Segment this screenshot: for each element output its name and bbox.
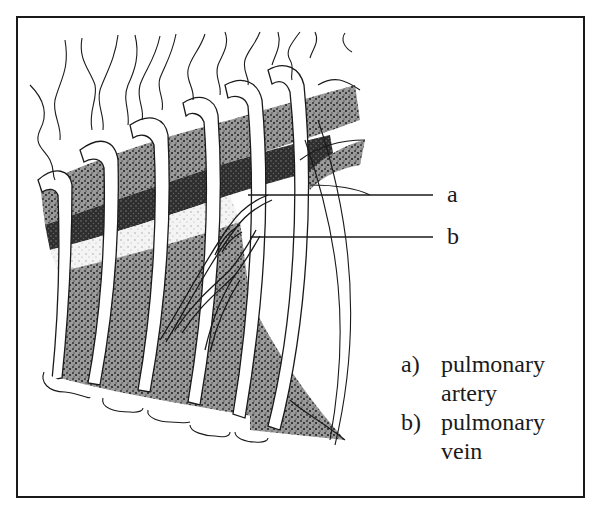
legend: a) pulmonary artery b) pulmonary vein — [401, 350, 545, 466]
legend-text: pulmonary artery — [441, 350, 545, 408]
legend-line: artery — [441, 379, 545, 408]
label-b: b — [447, 224, 459, 248]
legend-line: pulmonary — [441, 350, 545, 379]
label-a: a — [447, 182, 458, 206]
legend-item-b: b) pulmonary vein — [401, 408, 545, 466]
legend-key: b) — [401, 408, 441, 466]
legend-key: a) — [401, 350, 441, 408]
legend-text: pulmonary vein — [441, 408, 545, 466]
legend-line: pulmonary — [441, 408, 545, 437]
legend-line: vein — [441, 437, 545, 466]
legend-item-a: a) pulmonary artery — [401, 350, 545, 408]
